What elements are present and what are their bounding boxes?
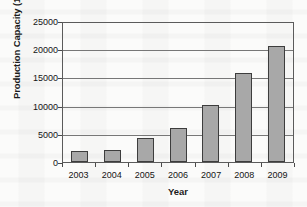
- x-axis-tick-mark: [62, 163, 63, 167]
- y-axis-tick-label: 15000: [14, 73, 58, 83]
- bar-slot: [162, 23, 195, 162]
- x-axis-tick-label-2004: 2004: [95, 170, 128, 180]
- y-axis-tick-label: 10000: [14, 102, 58, 112]
- y-axis-tick-label: 5000: [14, 130, 58, 140]
- bar-2005[interactable]: [137, 138, 154, 162]
- x-axis-tick-mark: [195, 163, 196, 167]
- x-axis-tick-label-2003: 2003: [62, 170, 95, 180]
- x-axis-tick-mark: [128, 163, 129, 167]
- x-axis-tick-label-2005: 2005: [128, 170, 161, 180]
- x-axis-tick-mark: [161, 163, 162, 167]
- bar-slot: [260, 23, 293, 162]
- x-axis-tick-marks: [62, 163, 294, 168]
- bar-2009[interactable]: [268, 46, 285, 162]
- y-axis-tick-label: 0: [14, 158, 58, 168]
- bar-2004[interactable]: [104, 150, 121, 162]
- y-axis-tick-label: 25000: [14, 17, 58, 27]
- bar-series: [63, 23, 293, 162]
- bar-slot: [194, 23, 227, 162]
- x-axis-tick-label-2009: 2009: [261, 170, 294, 180]
- x-axis-tick-label-2007: 2007: [195, 170, 228, 180]
- bar-2003[interactable]: [71, 151, 88, 162]
- bar-chart-figure: Production Capacity (103 ton) 0500010000…: [0, 0, 307, 207]
- x-axis-tick-label-2006: 2006: [161, 170, 194, 180]
- x-axis-tick-mark: [95, 163, 96, 167]
- x-axis-tick-mark: [261, 163, 262, 167]
- bar-2007[interactable]: [202, 105, 219, 162]
- bar-slot: [129, 23, 162, 162]
- bar-slot: [63, 23, 96, 162]
- y-axis-tick-labels: 0500010000150002000025000: [14, 0, 58, 207]
- y-axis-tick-label: 20000: [14, 45, 58, 55]
- x-axis-tick-label-2008: 2008: [228, 170, 261, 180]
- x-axis-tick-mark: [294, 163, 295, 167]
- bar-slot: [227, 23, 260, 162]
- x-axis-tick-mark: [228, 163, 229, 167]
- bar-slot: [96, 23, 129, 162]
- bar-2008[interactable]: [235, 73, 252, 162]
- x-axis-tick-labels: 2003200420052006200720082009: [62, 170, 294, 180]
- plot-area: [62, 22, 294, 163]
- bar-2006[interactable]: [170, 128, 187, 162]
- x-axis-title: Year: [62, 186, 294, 197]
